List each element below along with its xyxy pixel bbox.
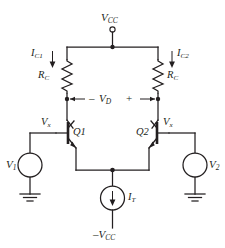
vcc-terminal-icon [110, 27, 115, 32]
label-q1: Q1 [73, 127, 86, 138]
vd-arrow-left-head [70, 97, 75, 101]
node-top-rail [110, 45, 114, 49]
label-vx-left: Vx [41, 117, 51, 128]
label-ic1: IC1 [31, 48, 43, 59]
source-v2-symbol [183, 153, 207, 177]
label-v2-main: V [209, 158, 216, 170]
label-rc-right: RC [167, 70, 178, 81]
circuit-diagram: VCC IC1 IC2 RC RC – VD + Vx Vx Q1 Q2 V1 … [0, 0, 225, 248]
label-rc-left-sub: C [44, 74, 49, 82]
vd-arrow-right-head [150, 97, 155, 101]
label-v1: V1 [6, 159, 16, 170]
schematic-canvas [0, 0, 225, 248]
label-v2-sub: 2 [216, 163, 220, 172]
label-vee-bottom-main: –V [93, 228, 105, 240]
label-q2: Q2 [136, 127, 149, 138]
label-ic1-sub: C1 [35, 52, 43, 60]
label-v1-sub: 1 [13, 163, 17, 172]
label-it: IT [128, 192, 135, 203]
label-v1-main: V [6, 158, 13, 170]
label-vd-sub: D [106, 97, 111, 106]
label-vd-main: V [99, 92, 106, 104]
label-ic1-main: I [31, 47, 35, 58]
label-vcc-top-main: V [101, 11, 108, 23]
label-vx-left-sub: x [47, 121, 50, 129]
ic1-arrow-head [50, 62, 56, 69]
label-vx-right: Vx [163, 117, 173, 128]
label-ic2-sub: C2 [181, 52, 189, 60]
label-vd-plus-sign: + [126, 93, 132, 104]
label-ic2: IC2 [177, 48, 189, 59]
label-vcc-top-sub: CC [108, 16, 118, 25]
label-it-main: I [128, 191, 132, 202]
label-vee-bottom-sub: CC [105, 233, 115, 242]
label-rc-left: RC [38, 70, 49, 81]
resistor-rc-left-symbol [62, 59, 72, 94]
label-v2: V2 [209, 159, 219, 170]
label-vd-minus-sign: – [89, 93, 95, 104]
resistor-rc-right-symbol [153, 59, 163, 94]
label-vee-bottom: –VCC [93, 229, 115, 240]
label-vcc-top: VCC [101, 12, 118, 23]
label-vx-right-sub: x [169, 121, 172, 129]
label-vd: VD [99, 93, 111, 104]
label-rc-right-sub: C [173, 74, 178, 82]
ic2-arrow-head [169, 62, 175, 69]
source-v1-symbol [18, 153, 42, 177]
label-ic2-main: I [177, 47, 181, 58]
label-it-sub: T [132, 196, 136, 204]
